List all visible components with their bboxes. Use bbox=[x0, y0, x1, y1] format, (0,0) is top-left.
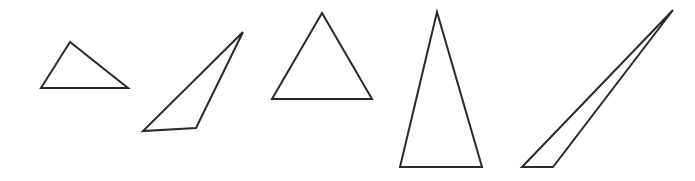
figure-canvas bbox=[0, 0, 695, 181]
triangles-diagram bbox=[0, 0, 695, 181]
figure-background bbox=[0, 0, 695, 181]
